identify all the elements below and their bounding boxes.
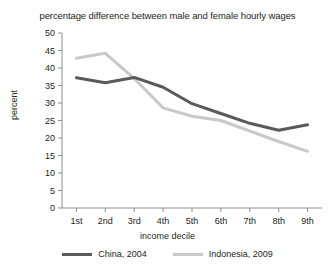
y-axis-label: percent [9,75,19,135]
x-tick-label: 7th [244,216,257,226]
legend-item-indonesia: Indonesia, 2009 [173,249,273,259]
x-tick-label: 1st [70,216,83,226]
y-tick-label: 35 [45,81,55,91]
y-tick-label: 20 [45,133,55,143]
legend-swatch-china [62,253,92,256]
x-tick-label: 3rd [128,216,141,226]
y-tick-label: 0 [50,203,55,213]
y-tick-label: 45 [45,46,55,56]
legend-label-china: China, 2004 [98,249,147,259]
series-line [76,77,307,130]
x-tick-label: 5th [186,216,199,226]
chart-figure: percentage difference between male and f… [0,0,335,275]
y-tick-label: 25 [45,116,55,126]
y-tick-label: 15 [45,151,55,161]
legend-item-china: China, 2004 [62,249,147,259]
legend-swatch-indonesia [173,253,203,256]
x-tick-label: 4th [157,216,170,226]
y-tick-label: 40 [45,63,55,73]
x-tick-label: 2nd [98,216,113,226]
chart-legend: China, 2004 Indonesia, 2009 [0,249,335,259]
legend-label-indonesia: Indonesia, 2009 [209,249,273,259]
y-tick-label: 10 [45,168,55,178]
x-tick-label: 9th [301,216,314,226]
x-tick-label: 6th [215,216,228,226]
y-tick-label: 5 [50,186,55,196]
y-tick-label: 30 [45,98,55,108]
x-tick-label: 8th [272,216,285,226]
x-axis-label: income decile [0,231,335,241]
y-tick-label: 50 [45,28,55,38]
